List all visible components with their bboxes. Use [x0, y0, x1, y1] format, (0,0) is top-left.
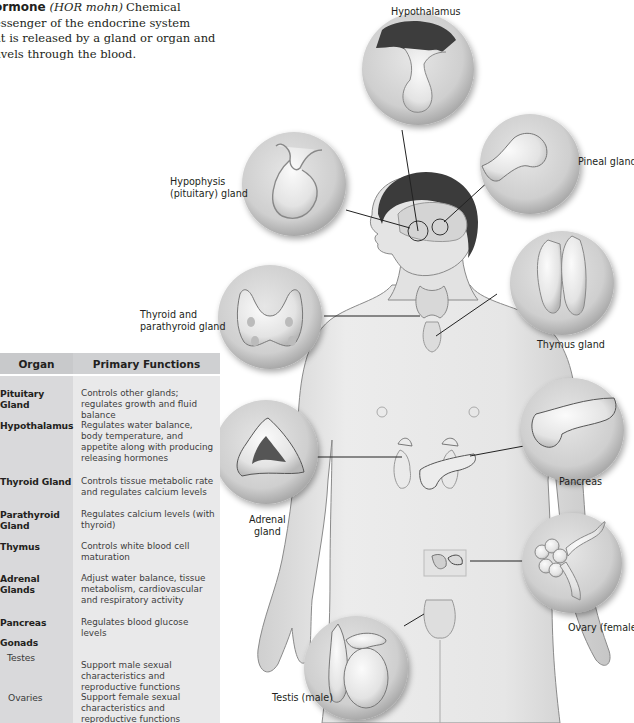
- adrenal-inset: [214, 400, 318, 504]
- label-testis: Testis (male): [272, 692, 333, 704]
- table-header: Organ Primary Functions: [0, 353, 220, 376]
- table-row: Adrenal Glands Adjust water balance, tis…: [0, 573, 220, 606]
- organ-function: Controls tissue metabolic rate and regul…: [73, 476, 220, 498]
- organ-name: Adrenal Glands: [0, 573, 73, 606]
- label-adrenal-gland: Adrenal gland: [249, 514, 286, 537]
- label-hypothalamus: Hypothalamus: [391, 6, 461, 18]
- pancreas-inset: [520, 378, 624, 482]
- header-functions: Primary Functions: [73, 353, 220, 374]
- table-row: Thyroid Gland Controls tissue metabolic …: [0, 476, 220, 498]
- table-row: Gonads: [0, 637, 220, 648]
- label-ovary: Ovary (female): [568, 622, 634, 634]
- label-pineal-gland: Pineal gland: [578, 156, 634, 168]
- table-row: Ovaries Support female sexual characteri…: [0, 692, 220, 723]
- organ-function: Support male sexual characteristics and …: [73, 652, 220, 693]
- organ-name: Parathyroid Gland: [0, 509, 73, 531]
- organ-function: Controls white blood cell maturation: [73, 541, 220, 563]
- table-row: Thymus Controls white blood cell maturat…: [0, 541, 220, 563]
- table-row: Pituitary Gland Controls other glands; r…: [0, 388, 220, 421]
- organ-name: Gonads: [0, 637, 73, 648]
- hypothalamus-inset: [362, 13, 474, 125]
- label-line: gland: [249, 526, 286, 538]
- label-thyroid: Thyroid and parathyroid gland: [140, 309, 226, 332]
- label-pancreas: Pancreas: [559, 476, 602, 488]
- organ-function: Regulates calcium levels (with thyroid): [73, 509, 220, 531]
- organ-function: Support female sexual characteristics an…: [73, 692, 220, 723]
- ovary-inset: [522, 513, 622, 613]
- label-hypophysis: Hypophysis (pituitary) gland: [170, 176, 248, 199]
- organ-name: Ovaries: [0, 692, 73, 723]
- label-line: Adrenal: [249, 514, 286, 526]
- organ-function: Controls other glands; regulates growth …: [73, 388, 220, 421]
- organ-name: Hypothalamus: [0, 420, 73, 464]
- header-organ: Organ: [0, 353, 73, 374]
- organ-function: Regulates water balance, body temperatur…: [73, 420, 220, 464]
- label-line: (pituitary) gland: [170, 188, 248, 200]
- label-line: Hypophysis: [170, 176, 248, 188]
- testis-inset: [304, 616, 408, 720]
- organ-function: Regulates blood glucose levels: [73, 617, 220, 639]
- table-row: Testes Support male sexual characteristi…: [0, 652, 220, 693]
- thymus-inset: [510, 231, 614, 335]
- organ-name: Thyroid Gland: [0, 476, 73, 498]
- organ-function: Adjust water balance, tissue metabolism,…: [73, 573, 220, 606]
- organ-function: [73, 637, 220, 648]
- pineal-inset: [480, 114, 580, 214]
- label-line: parathyroid gland: [140, 321, 226, 333]
- thyroid-inset: [218, 265, 322, 369]
- organ-name: Pituitary Gland: [0, 388, 73, 421]
- table-row: Parathyroid Gland Regulates calcium leve…: [0, 509, 220, 531]
- organ-name: Pancreas: [0, 617, 73, 639]
- label-line: Thyroid and: [140, 309, 226, 321]
- organ-name: Testes: [0, 652, 73, 693]
- label-thymus-gland: Thymus gland: [537, 339, 605, 351]
- organ-name: Thymus: [0, 541, 73, 563]
- table-row: Pancreas Regulates blood glucose levels: [0, 617, 220, 639]
- table-row: Hypothalamus Regulates water balance, bo…: [0, 420, 220, 464]
- pituitary-inset: [242, 132, 346, 236]
- organ-functions-table: Organ Primary Functions Pituitary Gland …: [0, 353, 220, 723]
